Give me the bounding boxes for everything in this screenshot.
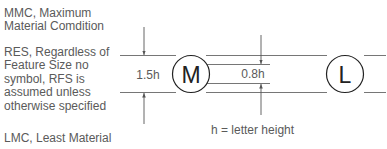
- lmc-symbol: L: [327, 56, 364, 93]
- inner-dimension-label: 0.8h: [241, 67, 264, 81]
- mmc-letter: M: [181, 62, 200, 88]
- letter-height-legend: h = letter height: [211, 123, 295, 137]
- outer-dimension-label: 1.5h: [136, 68, 159, 82]
- lmc-letter: L: [339, 62, 352, 88]
- mmc-symbol: M: [173, 56, 210, 93]
- symbol-size-diagram: 1.5h 0.8h M L h = letter height: [0, 0, 387, 149]
